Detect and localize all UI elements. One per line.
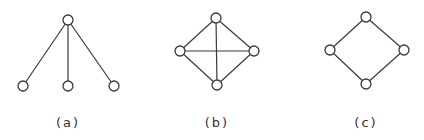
edge-top-right bbox=[216, 18, 254, 51]
edge-left-bottom bbox=[330, 50, 366, 84]
graph-c-label: (c) bbox=[354, 115, 377, 130]
edge-top-left bbox=[180, 18, 216, 51]
edge-top-bottom-right bbox=[68, 20, 114, 86]
graph-a bbox=[18, 15, 119, 91]
node-bottom-left bbox=[18, 81, 28, 91]
node-bottom-right bbox=[109, 81, 119, 91]
edge-top-bottom bbox=[216, 18, 217, 85]
edge-top-bottom-left bbox=[23, 20, 68, 86]
node-right bbox=[249, 46, 259, 56]
edge-top-right bbox=[366, 17, 404, 50]
node-top bbox=[361, 12, 371, 22]
node-left bbox=[325, 45, 335, 55]
edge-top-left bbox=[330, 17, 366, 50]
graph-b-label: (b) bbox=[205, 115, 229, 130]
node-top bbox=[63, 15, 73, 25]
node-right bbox=[399, 45, 409, 55]
node-bottom bbox=[212, 80, 222, 90]
node-left bbox=[175, 46, 185, 56]
edge-left-bottom bbox=[180, 51, 217, 85]
node-bottom bbox=[361, 79, 371, 89]
node-bottom-middle bbox=[63, 81, 73, 91]
graph-diagram: (a) (b) (c) bbox=[0, 0, 424, 140]
edge-right-bottom bbox=[217, 51, 254, 85]
node-top bbox=[211, 13, 221, 23]
graph-b bbox=[175, 13, 259, 90]
graph-a-label: (a) bbox=[56, 115, 80, 130]
edge-right-bottom bbox=[366, 50, 404, 84]
graph-c bbox=[325, 12, 409, 89]
